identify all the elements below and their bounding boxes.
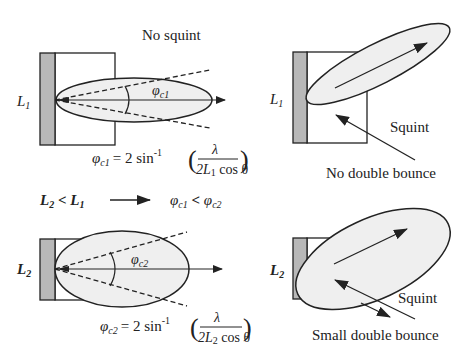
wall-label-L2: L2 [269, 262, 284, 280]
small-double-bounce-label: Small double bounce [312, 327, 439, 343]
wall [40, 53, 55, 145]
no-double-bounce-label: No double bounce [326, 165, 436, 181]
panel-top-left: No squint φc1 L1 φc1= 2 sin-1 ( λ 2L1 co… [16, 27, 249, 178]
wall [293, 52, 307, 143]
relation-row: L2 < L1 φc1 < φc2 [39, 192, 222, 210]
wall-label-L1: L1 [269, 91, 283, 109]
squint-label: Squint [390, 119, 430, 135]
svg-text:φc1= 2 sin-1: φc1= 2 sin-1 [92, 147, 162, 168]
panel-bottom-right: L2 Squint Small double bounce [269, 188, 465, 343]
squint-diagram: No squint φc1 L1 φc1= 2 sin-1 ( λ 2L1 co… [0, 0, 467, 364]
svg-text:λ: λ [213, 310, 220, 325]
relation-L2-lt-L1: L2 < L1 [39, 192, 84, 210]
svg-text:): ) [243, 313, 252, 342]
panel-top-right: L1 Squint No double bounce [269, 10, 458, 181]
equation-phi-c2: φc2= 2 sin-1 ( λ 2L2 cos θ ) [100, 310, 252, 346]
relation-phi-c1-lt-phi-c2: φc1 < φc2 [170, 192, 222, 210]
svg-text:φc2= 2 sin-1: φc2= 2 sin-1 [100, 315, 170, 336]
panel-bottom-left: φc2 L2 φc2= 2 sin-1 ( λ 2L2 cos θ ) [16, 231, 252, 346]
svg-text:λ: λ [211, 142, 218, 157]
equation-phi-c1: φc1= 2 sin-1 ( λ 2L1 cos θ ) [92, 142, 249, 178]
wall [40, 239, 55, 300]
wall-label-L1: L1 [16, 93, 30, 111]
svg-text:): ) [240, 145, 249, 174]
title-no-squint: No squint [142, 27, 202, 43]
squint-label: Squint [398, 290, 438, 306]
wall-label-L2: L2 [16, 261, 31, 279]
